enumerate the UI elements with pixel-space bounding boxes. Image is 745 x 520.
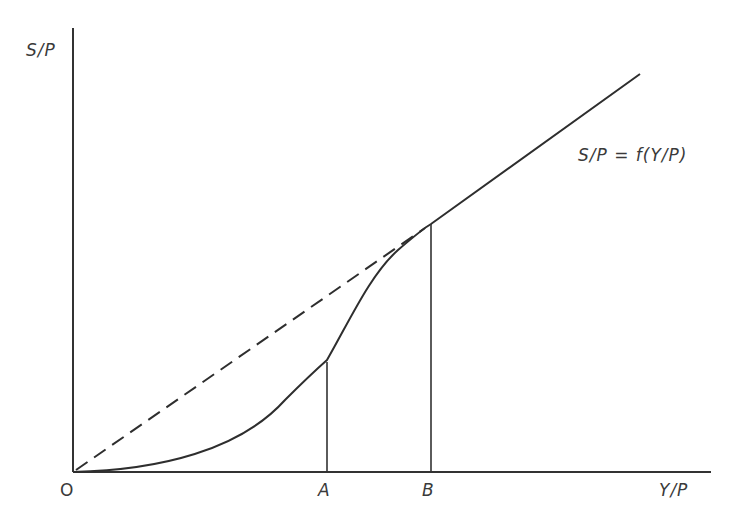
y-axis-label: S/P: [26, 40, 56, 60]
point-a-label: A: [317, 480, 331, 500]
diagram-canvas: S/P Y/P O A B S/P = f(Y/P): [0, 0, 745, 520]
function-label: S/P = f(Y/P): [578, 145, 687, 165]
dashed-ray-line: [76, 228, 425, 470]
x-axis-label: Y/P: [659, 480, 688, 500]
point-b-label: B: [422, 480, 435, 500]
origin-label: O: [60, 480, 74, 500]
